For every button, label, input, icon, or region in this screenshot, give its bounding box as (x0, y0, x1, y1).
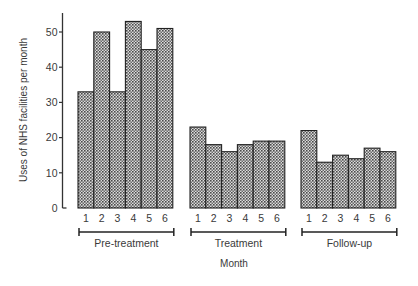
bar (94, 32, 110, 208)
bar (237, 145, 253, 208)
bar (301, 131, 317, 208)
x-axis-title: Month (220, 258, 248, 269)
x-tick-label: 3 (338, 212, 344, 224)
y-tick-label: 20 (46, 131, 58, 143)
x-tick-label: 3 (115, 212, 121, 224)
x-tick-label: 6 (385, 212, 391, 224)
x-tick-label: 6 (274, 212, 280, 224)
y-tick-label: 30 (46, 96, 58, 108)
y-axis-title: Uses of NHS facilities per month (18, 38, 29, 182)
group-label: Treatment (215, 237, 263, 249)
x-tick-label: 6 (162, 212, 168, 224)
y-axis: 01020304050 (46, 13, 67, 214)
x-tick-label: 5 (258, 212, 264, 224)
group-label: Follow-up (327, 237, 373, 249)
bar (141, 50, 157, 208)
bar (110, 92, 126, 208)
bar (364, 148, 380, 208)
bar (317, 162, 333, 208)
bar (125, 21, 141, 208)
x-tick-label: 1 (306, 212, 312, 224)
x-tick-label: 4 (353, 212, 359, 224)
x-tick-label: 4 (130, 212, 136, 224)
x-tick-label: 1 (83, 212, 89, 224)
x-tick-label: 2 (211, 212, 217, 224)
bar (222, 152, 238, 208)
bar (253, 141, 269, 208)
x-tick-label: 5 (146, 212, 152, 224)
bar (206, 145, 222, 208)
x-tick-label: 2 (99, 212, 105, 224)
bar (190, 127, 206, 208)
x-tick-labels: 123456123456123456 (83, 212, 391, 224)
bar (348, 159, 364, 208)
x-tick-label: 5 (369, 212, 375, 224)
y-tick-label: 0 (52, 202, 58, 214)
group-label: Pre-treatment (94, 237, 158, 249)
x-tick-label: 1 (195, 212, 201, 224)
bars (78, 21, 396, 208)
y-tick-label: 40 (46, 61, 58, 73)
bar (157, 28, 173, 208)
bar (269, 141, 285, 208)
x-tick-label: 2 (322, 212, 328, 224)
bar (380, 152, 396, 208)
bar (78, 92, 94, 208)
y-tick-label: 50 (46, 26, 58, 38)
x-tick-label: 3 (227, 212, 233, 224)
y-tick-label: 10 (46, 167, 58, 179)
bar (333, 155, 349, 208)
group-brackets: Pre-treatmentTreatmentFollow-up (79, 228, 397, 249)
chart: 01020304050 123456123456123456 Pre-treat… (0, 0, 418, 286)
x-tick-label: 4 (242, 212, 248, 224)
